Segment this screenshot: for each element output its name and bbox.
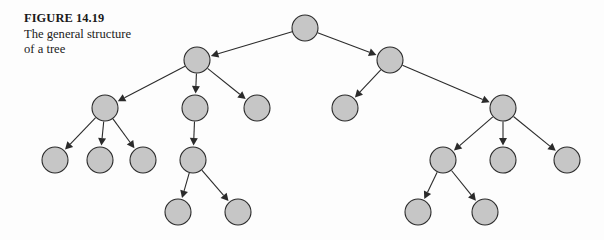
tree-edge (192, 73, 200, 93)
node-l1a (42, 147, 68, 173)
node-r2c (554, 147, 580, 173)
tree-edge (211, 32, 292, 58)
node-r2a2 (472, 199, 498, 225)
tree-edge (180, 173, 189, 198)
node-l1c (130, 147, 156, 173)
node-l1 (92, 95, 118, 121)
figure-container: FIGURE 14.19 The general structure of a … (0, 0, 604, 240)
tree-edge (451, 171, 475, 201)
node-r2 (490, 95, 516, 121)
tree-edge (513, 117, 555, 151)
tree-edge (454, 117, 493, 151)
tree-edge (118, 66, 185, 101)
tree-edge (202, 170, 229, 201)
arrow-head-icon (192, 86, 200, 94)
arrow-head-icon (237, 91, 245, 99)
tree-nodes-layer (42, 15, 580, 225)
arrow-head-icon (547, 143, 555, 151)
tree-edge (65, 118, 96, 150)
node-l1b (87, 147, 113, 173)
node-l3 (244, 95, 270, 121)
node-l2a2 (225, 199, 251, 225)
tree-edges-layer (65, 32, 556, 201)
tree-edge (98, 121, 106, 145)
node-l2a1 (165, 199, 191, 225)
tree-edge (402, 65, 489, 103)
arrow-head-icon (98, 138, 106, 146)
node-l2a (180, 147, 206, 173)
arrow-head-icon (190, 138, 198, 146)
arrow-head-icon (468, 192, 476, 200)
tree-edge (208, 68, 246, 99)
node-right-child (377, 47, 403, 73)
root-node (292, 15, 318, 41)
node-left-child (184, 47, 210, 73)
arrow-head-icon (211, 50, 219, 58)
node-r2a (430, 147, 456, 173)
arrow-head-icon (180, 190, 188, 198)
tree-edge (190, 121, 198, 145)
tree-edge (355, 70, 381, 98)
tree-edge (318, 33, 377, 56)
node-r1 (332, 95, 358, 121)
node-r2a1 (405, 199, 431, 225)
tree-diagram (0, 0, 604, 240)
node-r2b (490, 147, 516, 173)
arrow-head-icon (499, 138, 507, 146)
tree-edge (424, 172, 437, 199)
tree-edge (499, 122, 507, 146)
node-l2 (182, 95, 208, 121)
tree-edge (113, 119, 134, 148)
arrow-head-icon (127, 140, 135, 148)
